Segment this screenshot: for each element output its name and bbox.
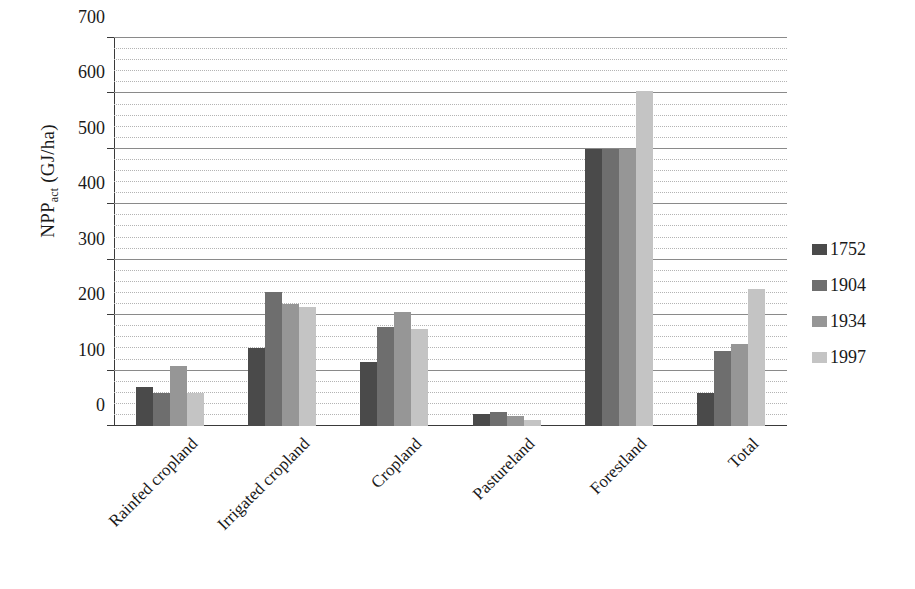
legend-label: 1752 (830, 240, 866, 258)
bar[interactable] (714, 351, 731, 426)
y-tick-mark (107, 92, 114, 93)
x-axis-label-text: Total (724, 434, 763, 473)
x-axis-label-text: Forestland (586, 434, 651, 499)
bar[interactable] (473, 414, 490, 426)
x-axis-label-text: Rainfed cropland (105, 434, 202, 531)
y-tick-label: 700 (78, 7, 105, 28)
x-axis-label: Irrigated cropland (214, 434, 315, 535)
bar-group (338, 38, 450, 426)
legend-swatch-icon (812, 244, 827, 255)
bar[interactable] (394, 312, 411, 426)
x-axis-label-text: Pastureland (468, 434, 538, 504)
bar-group (675, 38, 787, 426)
legend-label: 1997 (830, 348, 866, 366)
legend: 1752190419341997 (812, 231, 866, 375)
bar[interactable] (282, 304, 299, 426)
bar[interactable] (748, 289, 765, 426)
bar[interactable] (170, 366, 187, 426)
bar[interactable] (490, 412, 507, 426)
legend-label: 1904 (830, 276, 866, 294)
bar[interactable] (507, 416, 524, 426)
legend-item[interactable]: 1997 (812, 339, 866, 375)
x-axis-label: Total (724, 434, 763, 473)
y-tick-label: 600 (78, 62, 105, 83)
y-tick-label: 300 (78, 228, 105, 249)
y-tick-mark (107, 425, 114, 426)
y-axis-title-units: (GJ/ha) (37, 124, 58, 187)
bar[interactable] (360, 362, 377, 426)
x-axis-label: Rainfed cropland (105, 434, 202, 531)
y-axis-title-subscript: act (47, 188, 61, 203)
y-tick-label: 100 (78, 339, 105, 360)
legend-item[interactable]: 1752 (812, 231, 866, 267)
x-axis-label: Forestland (586, 434, 651, 499)
y-tick-label: 200 (78, 284, 105, 305)
x-axis-label-text: Cropland (368, 434, 427, 493)
bar[interactable] (299, 307, 316, 426)
bar[interactable] (377, 327, 394, 426)
y-tick-label: 500 (78, 117, 105, 138)
bar[interactable] (602, 149, 619, 426)
bar-chart-figure: NPPact (GJ/ha) 0100200300400500600700 Ra… (0, 0, 915, 589)
bar[interactable] (697, 393, 714, 426)
legend-swatch-icon (812, 280, 827, 291)
bar[interactable] (524, 420, 541, 426)
legend-item[interactable]: 1904 (812, 267, 866, 303)
bar[interactable] (248, 348, 265, 426)
legend-swatch-icon (812, 316, 827, 327)
y-tick-label: 400 (78, 173, 105, 194)
bar[interactable] (411, 329, 428, 426)
x-axis-label: Pastureland (468, 434, 538, 504)
y-tick-mark (107, 203, 114, 204)
bar[interactable] (265, 292, 282, 426)
bar-group (563, 38, 675, 426)
bar[interactable] (636, 91, 653, 426)
y-tick-mark (107, 314, 114, 315)
y-tick-mark (107, 370, 114, 371)
y-tick-mark (107, 37, 114, 38)
bar[interactable] (153, 393, 170, 426)
x-axis-label-text: Irrigated cropland (214, 434, 315, 535)
x-axis-label: Cropland (368, 434, 427, 493)
bar[interactable] (585, 149, 602, 426)
y-axis-title: NPPact (GJ/ha) (37, 71, 59, 291)
bar[interactable] (731, 344, 748, 426)
bar[interactable] (187, 393, 204, 426)
legend-item[interactable]: 1934 (812, 303, 866, 339)
bar[interactable] (136, 387, 153, 426)
y-axis-title-main: NPP (37, 202, 58, 237)
y-tick-mark (107, 259, 114, 260)
legend-swatch-icon (812, 352, 827, 363)
bar[interactable] (619, 149, 636, 426)
y-tick-mark (107, 148, 114, 149)
plot-area: 0100200300400500600700 Rainfed croplandI… (114, 38, 787, 426)
bar-group (114, 38, 226, 426)
bar-group (451, 38, 563, 426)
y-tick-label: 0 (96, 395, 105, 416)
legend-label: 1934 (830, 312, 866, 330)
bar-group (226, 38, 338, 426)
